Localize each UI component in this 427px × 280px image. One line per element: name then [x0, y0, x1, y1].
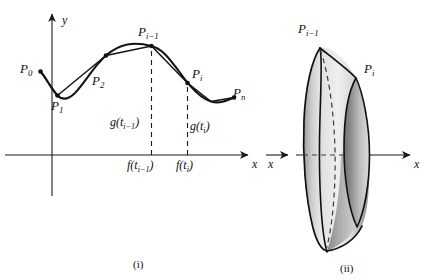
caption-right: (ii) — [340, 262, 353, 274]
curve-point-label-Pn: Pn — [233, 86, 245, 102]
left-y-axis-label: y — [62, 14, 67, 26]
ordinate-label-g-t-i: g(ti) — [190, 120, 210, 135]
figure-root: y x P0 P1 P2 Pi−1 Pi Pn g(ti−1) g(ti) f(… — [0, 0, 427, 280]
curve-point-label-Pi: Pi — [192, 67, 202, 83]
left-panel-dashed-ordinates — [152, 46, 188, 155]
right-x-axis-label-left: x — [268, 158, 273, 170]
left-x-axis-label: x — [252, 158, 257, 170]
solid-point-label-Pi-minus-1: Pi−1 — [298, 22, 319, 38]
abscissa-label-f-t-i: f(ti) — [176, 159, 193, 174]
right-x-axis-label-right: x — [414, 158, 419, 170]
abscissa-label-f-t-i-minus-1: f(ti−1) — [127, 159, 154, 174]
solid-point-label-Pi: Pi — [364, 62, 374, 78]
ordinate-label-g-t-i-minus-1: g(ti−1) — [110, 116, 139, 131]
parametric-curve — [41, 44, 235, 103]
point-P2 — [104, 53, 109, 58]
point-Pi-1 — [149, 44, 154, 49]
partition-points — [38, 44, 236, 100]
inscribed-polygon — [41, 46, 235, 102]
curve-point-label-P1: P1 — [51, 99, 63, 115]
curve-point-label-P0: P0 — [20, 62, 32, 78]
point-P0 — [38, 69, 43, 74]
left-panel-drawing — [0, 0, 427, 280]
curve-point-label-Pi-minus-1: Pi−1 — [138, 25, 159, 41]
point-Pi — [185, 81, 190, 86]
caption-left: (i) — [133, 258, 143, 270]
right-panel-drawing — [266, 47, 410, 252]
curve-point-label-P2: P2 — [92, 74, 104, 90]
